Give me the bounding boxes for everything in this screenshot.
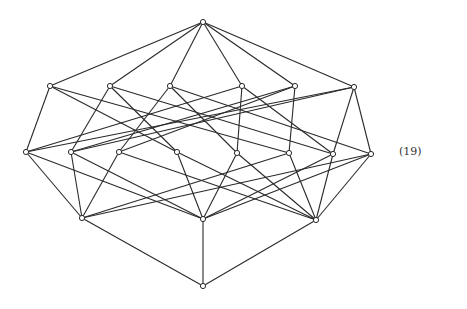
edge-A4-R5 (237, 86, 242, 153)
node-A1 (47, 83, 52, 88)
edge-R6-L3 (289, 153, 316, 220)
edge-A6-R7 (333, 87, 354, 154)
edge-R5-L3 (237, 153, 316, 220)
edge-R2-L1 (71, 152, 82, 218)
edge-A6-R8 (354, 87, 371, 154)
node-R2 (68, 149, 73, 154)
node-T (200, 19, 205, 24)
lattice-diagram (0, 0, 467, 309)
edge-R1-L2 (26, 152, 203, 219)
node-R8 (368, 151, 373, 156)
edge-R8-L2 (203, 154, 371, 219)
node-L2 (200, 216, 205, 221)
node-A4 (239, 83, 244, 88)
edge-L3-B (203, 220, 316, 286)
edge-R5-L2 (203, 153, 237, 219)
edge-T-A4 (203, 22, 242, 86)
edge-A3-R8 (170, 86, 371, 154)
edge-R4-L3 (177, 152, 316, 220)
edge-A1-R6 (50, 86, 289, 153)
edge-R2-L2 (71, 152, 203, 219)
node-R5 (234, 150, 239, 155)
equation-number: (19) (399, 145, 422, 158)
node-A5 (292, 83, 297, 88)
node-R3 (116, 149, 121, 154)
node-A6 (351, 84, 356, 89)
edge-R1-L1 (26, 152, 82, 218)
edge-L1-B (82, 218, 203, 286)
edge-T-A1 (50, 22, 203, 86)
node-R4 (174, 149, 179, 154)
edge-R8-L1 (82, 154, 371, 218)
edge-T-A3 (170, 22, 203, 86)
edge-T-A5 (203, 22, 295, 86)
node-L3 (313, 217, 318, 222)
edge-T-A2 (110, 22, 203, 86)
edge-A6-R1 (26, 87, 354, 152)
node-R6 (286, 150, 291, 155)
node-L1 (79, 215, 84, 220)
edge-A5-R6 (289, 86, 295, 153)
edge-A4-R1 (26, 86, 242, 152)
node-R1 (23, 149, 28, 154)
node-A3 (167, 83, 172, 88)
edge-layer (26, 22, 371, 286)
edge-A1-R1 (26, 86, 50, 152)
node-B (200, 283, 205, 288)
node-A2 (107, 83, 112, 88)
edge-T-A6 (203, 22, 354, 87)
edge-R3-L3 (119, 152, 316, 220)
edge-R4-L2 (177, 152, 203, 219)
node-R7 (330, 151, 335, 156)
